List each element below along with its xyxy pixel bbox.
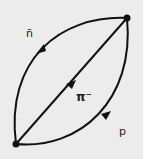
feynman-diagram: n̄ π⁻ p [0,0,143,159]
arrow-proton-icon [101,111,111,120]
label-proton: p [119,125,126,138]
label-antineutron: n̄ [26,27,33,40]
vertex-top [124,15,131,22]
vertex-bottom [13,141,20,148]
label-pion: π⁻ [76,90,92,104]
